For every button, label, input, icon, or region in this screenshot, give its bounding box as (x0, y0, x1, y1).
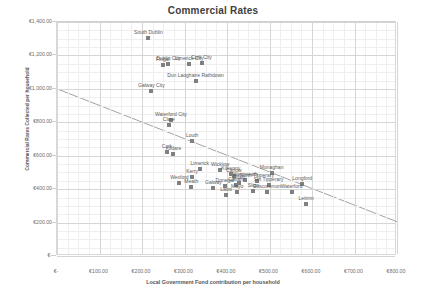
gridline-horizontal-minor (57, 206, 395, 207)
data-point-label: Monaghan (260, 165, 284, 170)
gridline-horizontal-minor (57, 30, 395, 31)
gridline-horizontal (57, 122, 395, 123)
gridline-horizontal-minor (57, 72, 395, 73)
gridline-vertical-minor (291, 22, 292, 254)
data-point-marker[interactable] (189, 185, 193, 189)
x-axis-title: Local Government Fund contribution per h… (0, 279, 426, 285)
data-point-marker[interactable] (304, 202, 308, 206)
x-axis-tick-label: €200.00 (132, 268, 151, 274)
data-point-marker[interactable] (200, 61, 204, 65)
gridline-vertical-minor (78, 22, 79, 254)
gridline-horizontal (57, 223, 395, 224)
x-axis-tick-label: €500.00 (259, 268, 278, 274)
y-axis-tick-mark (52, 21, 56, 22)
data-point-label: Roscommon (253, 184, 281, 189)
y-axis-tick-mark (52, 255, 56, 256)
y-axis-tick-mark (52, 54, 56, 55)
data-point-label: Mayo (231, 184, 243, 189)
y-axis-tick-label: €1,200.00 (29, 51, 52, 57)
data-point-marker[interactable] (235, 190, 239, 194)
data-point-label: Longford (292, 176, 312, 181)
gridline-vertical (355, 22, 356, 254)
data-point-marker[interactable] (211, 186, 215, 190)
data-point-label: Galway (205, 180, 222, 185)
y-axis-tick-mark (52, 188, 56, 189)
data-point-marker[interactable] (198, 167, 202, 171)
gridline-vertical-minor (333, 22, 334, 254)
chart-title: Commercial Rates (0, 5, 426, 16)
gridline-horizontal-minor (57, 47, 395, 48)
y-axis-tick-label: €600.00 (33, 152, 52, 158)
data-point-marker[interactable] (171, 152, 175, 156)
gridline-vertical-minor (121, 22, 122, 254)
gridline-vertical (227, 22, 228, 254)
gridline-horizontal (57, 156, 395, 157)
y-axis-title: Commercial Rates Collected per household (24, 44, 30, 194)
x-axis-tick-label: €100.00 (89, 268, 108, 274)
gridline-vertical-minor (323, 22, 324, 254)
x-axis-tick-label: €400.00 (217, 268, 236, 274)
gridline-horizontal-minor (57, 139, 395, 140)
x-axis-tick-label: €700.00 (344, 268, 363, 274)
y-axis-tick-label: €1,400.00 (29, 18, 52, 24)
gridline-vertical (57, 22, 58, 254)
data-point-marker[interactable] (290, 190, 294, 194)
gridline-horizontal-minor (57, 214, 395, 215)
data-point-marker[interactable] (251, 189, 255, 193)
gridline-vertical-minor (89, 22, 90, 254)
data-point-label: Leitrim (299, 196, 314, 201)
gridline-vertical-minor (248, 22, 249, 254)
data-point-label: Cavan (228, 177, 242, 182)
gridline-horizontal-minor (57, 248, 395, 249)
gridline-vertical-minor (386, 22, 387, 254)
gridline-horizontal-minor (57, 106, 395, 107)
gridline-horizontal-minor (57, 81, 395, 82)
x-axis-tick-label: €600.00 (302, 268, 321, 274)
gridline-horizontal-minor (57, 198, 395, 199)
gridline-vertical-minor (238, 22, 239, 254)
gridline-horizontal-minor (57, 114, 395, 115)
data-point-marker[interactable] (146, 36, 150, 40)
x-axis-tick-label: €800.00 (387, 268, 406, 274)
data-point-marker[interactable] (166, 62, 170, 66)
data-point-marker[interactable] (194, 79, 198, 83)
gridline-vertical (312, 22, 313, 254)
gridline-horizontal-minor (57, 239, 395, 240)
y-axis-tick-mark (52, 222, 56, 223)
data-point-label: Meath (184, 179, 198, 184)
y-axis-tick-mark (52, 88, 56, 89)
gridline-vertical-minor (259, 22, 260, 254)
data-point-marker[interactable] (265, 190, 269, 194)
x-axis-tick-label: €300.00 (174, 268, 193, 274)
y-axis-tick-mark (52, 121, 56, 122)
y-axis-tick-mark (52, 155, 56, 156)
gridline-horizontal-minor (57, 147, 395, 148)
data-point-marker[interactable] (190, 139, 194, 143)
data-point-label: Dun Laoghaire Rathdown (167, 73, 224, 78)
y-axis-tick-label: €800.00 (33, 118, 52, 124)
gridline-horizontal (57, 256, 395, 257)
gridline-horizontal (57, 55, 395, 56)
data-point-label: Waterford (281, 184, 303, 189)
data-point-label: Galway City (138, 83, 165, 88)
y-axis-tick-label: €1,000.00 (29, 85, 52, 91)
gridline-horizontal-minor (57, 231, 395, 232)
gridline-vertical-minor (131, 22, 132, 254)
gridline-horizontal-minor (57, 64, 395, 65)
data-point-label: Clare (163, 117, 175, 122)
gridline-vertical-minor (376, 22, 377, 254)
y-axis-tick-label: €200.00 (33, 219, 52, 225)
data-point-label: Louth (186, 133, 199, 138)
data-point-marker[interactable] (161, 63, 165, 67)
gridline-horizontal-minor (57, 131, 395, 132)
gridline-vertical (100, 22, 101, 254)
gridline-horizontal-minor (57, 39, 395, 40)
data-point-marker[interactable] (187, 62, 191, 66)
y-axis-tick-label: €400.00 (33, 185, 52, 191)
data-point-marker[interactable] (149, 89, 153, 93)
data-point-marker[interactable] (177, 181, 181, 185)
data-point-label: Fingal (156, 57, 170, 62)
gridline-vertical-minor (280, 22, 281, 254)
data-point-marker[interactable] (224, 193, 228, 197)
data-point-marker[interactable] (167, 123, 171, 127)
